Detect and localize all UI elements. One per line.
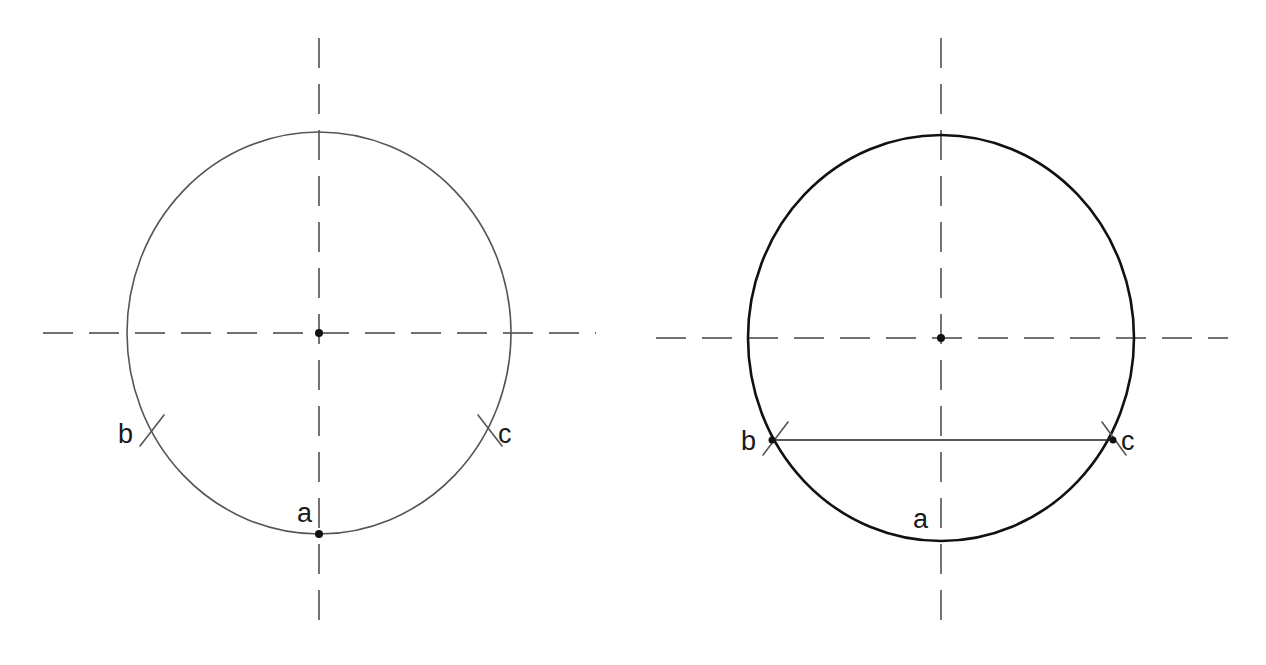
left-label-b: b — [118, 419, 133, 449]
left-center-dot — [315, 329, 323, 337]
left-label-a: a — [297, 498, 313, 528]
right-label-c: c — [1121, 426, 1135, 456]
right-label-a: a — [913, 504, 929, 534]
left-figure: a b c — [43, 38, 596, 628]
left-label-c: c — [498, 419, 512, 449]
right-center-dot — [937, 334, 945, 342]
diagram-canvas: a b c a b c — [0, 0, 1266, 665]
chord-endpoint-b-dot — [769, 437, 776, 444]
right-figure: a b c — [656, 38, 1228, 628]
right-label-b: b — [741, 426, 756, 456]
left-point-a-dot — [315, 530, 323, 538]
chord-endpoint-c-dot — [1110, 437, 1117, 444]
diagram-root: a b c a b c — [0, 0, 1266, 665]
left-tick-b — [140, 415, 164, 446]
